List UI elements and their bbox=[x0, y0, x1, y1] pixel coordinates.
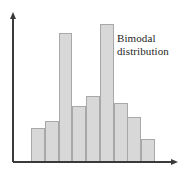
histogram-bar bbox=[32, 129, 45, 163]
histogram-chart bbox=[0, 0, 186, 175]
histogram-figure: Bimodal distribution bbox=[0, 0, 186, 175]
histogram-bar bbox=[45, 122, 58, 163]
y-axis-arrow-icon bbox=[10, 12, 16, 19]
histogram-bar bbox=[114, 104, 127, 163]
histogram-bar bbox=[73, 107, 86, 163]
histogram-bar bbox=[100, 25, 113, 163]
x-axis-arrow-icon bbox=[171, 159, 178, 165]
histogram-bar bbox=[142, 140, 155, 163]
histogram-bar bbox=[87, 97, 100, 163]
histogram-bar bbox=[59, 34, 72, 163]
histogram-bars bbox=[32, 25, 155, 163]
histogram-bar bbox=[128, 118, 141, 163]
